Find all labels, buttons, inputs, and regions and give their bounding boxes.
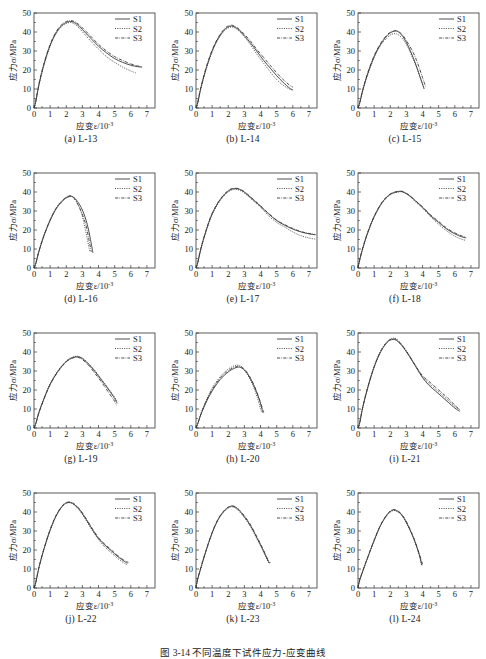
legend-label-S1: S1 — [295, 14, 304, 24]
curve-S1 — [358, 339, 460, 428]
legend-label-S3: S3 — [133, 513, 142, 523]
svg-text:2: 2 — [226, 429, 230, 439]
svg-text:40: 40 — [347, 27, 356, 37]
svg-text:3: 3 — [80, 269, 84, 279]
svg-text:1: 1 — [372, 429, 376, 439]
svg-text:5: 5 — [275, 429, 279, 439]
curve-S3 — [34, 196, 91, 268]
curve-S1 — [34, 502, 128, 588]
x-axis-label: 应变ε/10-3 — [238, 441, 275, 451]
svg-text:40: 40 — [185, 347, 194, 357]
subplot-caption-b: (b) L-14 — [162, 134, 324, 145]
svg-text:6: 6 — [129, 109, 133, 119]
x-axis-label: 应变ε/10-3 — [76, 281, 113, 291]
svg-text:6: 6 — [129, 589, 133, 599]
curve-S1 — [358, 31, 424, 108]
x-axis-label: 应变ε/10-3 — [238, 601, 275, 611]
svg-text:0: 0 — [27, 103, 31, 113]
svg-text:20: 20 — [185, 65, 194, 75]
svg-text:2: 2 — [64, 429, 68, 439]
svg-text:4: 4 — [96, 109, 101, 119]
curve-S3 — [34, 21, 142, 108]
legend-label-S2: S2 — [457, 504, 466, 514]
svg-text:1: 1 — [48, 429, 52, 439]
svg-text:10: 10 — [347, 564, 356, 574]
svg-text:2: 2 — [64, 269, 68, 279]
y-axis-label: 应力σ/MPa — [8, 520, 18, 561]
svg-text:10: 10 — [185, 244, 194, 254]
svg-text:6: 6 — [291, 429, 295, 439]
svg-text:0: 0 — [351, 103, 355, 113]
svg-text:6: 6 — [129, 429, 133, 439]
plot-area-e: 0123456701020304050应力σ/MPa应变ε/10-3S1S2S3 — [162, 160, 324, 293]
x-axis-label: 应变ε/10-3 — [76, 121, 113, 131]
svg-text:0: 0 — [351, 263, 355, 273]
svg-text:40: 40 — [23, 347, 32, 357]
svg-text:2: 2 — [226, 109, 230, 119]
svg-text:30: 30 — [185, 46, 194, 56]
svg-text:5: 5 — [437, 429, 441, 439]
legend-label-S1: S1 — [295, 174, 304, 184]
x-axis-label: 应变ε/10-3 — [400, 601, 437, 611]
svg-text:0: 0 — [356, 589, 360, 599]
svg-text:40: 40 — [185, 27, 194, 37]
svg-text:40: 40 — [23, 507, 32, 517]
svg-text:50: 50 — [185, 168, 194, 178]
svg-text:3: 3 — [242, 109, 246, 119]
svg-text:4: 4 — [420, 109, 425, 119]
curve-S2 — [196, 365, 261, 428]
svg-text:30: 30 — [23, 526, 32, 536]
svg-text:20: 20 — [347, 225, 356, 235]
curve-S2 — [196, 507, 269, 588]
svg-text:7: 7 — [307, 269, 311, 279]
plot-area-a: 0123456701020304050应力σ/MPa应变ε/10-3S1S2S3 — [0, 0, 162, 133]
legend-label-S3: S3 — [457, 513, 466, 523]
legend-label-S2: S2 — [457, 344, 466, 354]
y-axis-label: 应力σ/MPa — [8, 40, 18, 81]
svg-text:5: 5 — [113, 109, 117, 119]
svg-text:4: 4 — [420, 429, 425, 439]
y-axis-label: 应力σ/MPa — [332, 360, 342, 401]
svg-text:2: 2 — [64, 109, 68, 119]
curve-S2 — [358, 510, 422, 588]
svg-text:3: 3 — [404, 109, 408, 119]
x-axis-label: 应变ε/10-3 — [76, 441, 113, 451]
x-axis-label: 应变ε/10-3 — [76, 601, 113, 611]
svg-text:0: 0 — [32, 429, 36, 439]
legend-label-S1: S1 — [457, 494, 466, 504]
svg-text:0: 0 — [32, 109, 36, 119]
curve-S2 — [358, 338, 460, 428]
curve-S2 — [34, 503, 128, 588]
svg-text:4: 4 — [258, 109, 263, 119]
subplot-caption-k: (k) L-23 — [162, 614, 324, 625]
svg-text:0: 0 — [189, 103, 193, 113]
legend-label-S3: S3 — [133, 33, 142, 43]
legend-label-S3: S3 — [295, 513, 304, 523]
curve-S2 — [34, 22, 136, 108]
subplot-h: 0123456701020304050应力σ/MPa应变ε/10-3S1S2S3… — [162, 320, 324, 480]
svg-text:4: 4 — [420, 269, 425, 279]
svg-text:2: 2 — [64, 589, 68, 599]
svg-text:3: 3 — [404, 589, 408, 599]
svg-text:2: 2 — [388, 589, 392, 599]
svg-text:1: 1 — [48, 589, 52, 599]
svg-text:20: 20 — [23, 225, 32, 235]
svg-text:1: 1 — [372, 269, 376, 279]
legend-label-S2: S2 — [133, 184, 142, 194]
legend-label-S1: S1 — [133, 334, 142, 344]
y-axis-label: 应力σ/MPa — [8, 360, 18, 401]
y-axis-label: 应力σ/MPa — [8, 200, 18, 241]
svg-text:4: 4 — [258, 269, 263, 279]
subplot-k: 0123456701020304050应力σ/MPa应变ε/10-3S1S2S3… — [162, 480, 324, 640]
svg-text:4: 4 — [420, 589, 425, 599]
svg-text:3: 3 — [404, 429, 408, 439]
subplot-e: 0123456701020304050应力σ/MPa应变ε/10-3S1S2S3… — [162, 160, 324, 320]
stress-strain-figure: 0123456701020304050应力σ/MPa应变ε/10-3S1S2S3… — [0, 0, 486, 659]
legend-label-S2: S2 — [295, 344, 304, 354]
svg-text:6: 6 — [453, 429, 457, 439]
subplot-caption-a: (a) L-13 — [0, 134, 162, 145]
svg-text:2: 2 — [388, 109, 392, 119]
legend-label-S3: S3 — [457, 193, 466, 203]
legend-label-S1: S1 — [295, 494, 304, 504]
svg-text:3: 3 — [242, 269, 246, 279]
